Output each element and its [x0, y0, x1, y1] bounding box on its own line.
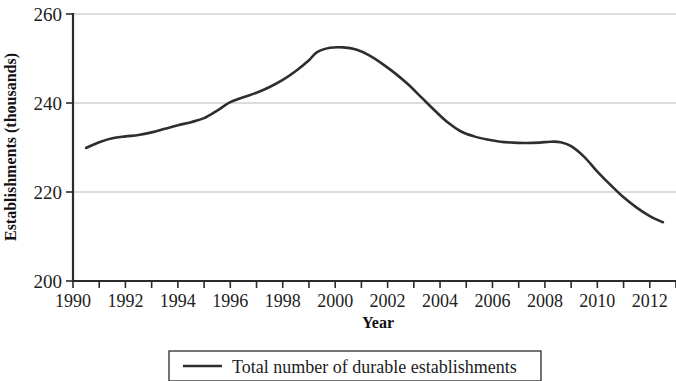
x-tick-label-1990: 1990 — [55, 291, 91, 311]
gridlines — [73, 14, 676, 281]
x-tick-label-2008: 2008 — [527, 291, 563, 311]
y-tick-label-220: 220 — [34, 182, 63, 203]
x-tick-label-2012: 2012 — [632, 291, 668, 311]
x-tick-label-1998: 1998 — [265, 291, 301, 311]
x-tick-label-2010: 2010 — [579, 291, 615, 311]
y-tick-label-200: 200 — [34, 271, 63, 292]
axis-lines — [73, 13, 676, 282]
y-tick-label-240: 240 — [34, 93, 63, 114]
y-axis-title: Establishments (thousands) — [2, 53, 20, 241]
line-chart-canvas: 260 240 220 200 199019921994199619982000… — [0, 0, 676, 381]
x-tick-label-2002: 2002 — [370, 291, 406, 311]
x-tick-label-2004: 2004 — [422, 291, 458, 311]
series-line-total-durable-establishments — [86, 47, 663, 222]
x-tick-label-1996: 1996 — [212, 291, 248, 311]
chart-legend: Total number of durable establishments — [169, 351, 541, 381]
x-tick-label-2006: 2006 — [474, 291, 510, 311]
legend-label-0: Total number of durable establishments — [232, 357, 517, 377]
chart-figure: 260 240 220 200 199019921994199619982000… — [0, 0, 676, 381]
y-tick-label-260: 260 — [34, 4, 63, 25]
x-tick-label-2000: 2000 — [317, 291, 353, 311]
x-tick-label-1992: 1992 — [107, 291, 143, 311]
y-tick-labels: 260 240 220 200 — [34, 4, 63, 292]
x-tick-label-1994: 1994 — [160, 291, 196, 311]
x-tick-labels: 1990199219941996199820002002200420062008… — [55, 291, 668, 311]
x-axis-title: Year — [362, 314, 394, 331]
